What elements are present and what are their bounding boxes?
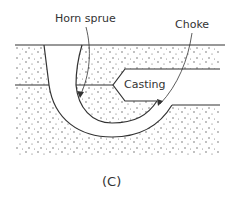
casting-label: Casting (124, 78, 165, 91)
figure-caption: (C) (102, 174, 121, 189)
choke-label: Choke (175, 18, 209, 31)
horn-sprue-label: Horn sprue (55, 12, 116, 25)
